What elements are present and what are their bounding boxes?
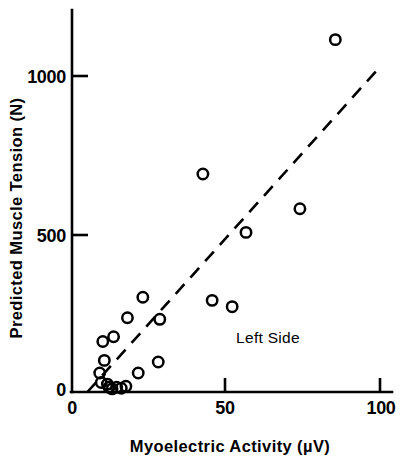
data-point bbox=[227, 301, 237, 311]
data-point bbox=[241, 227, 251, 237]
data-point bbox=[108, 332, 118, 342]
data-point bbox=[138, 292, 148, 302]
data-point bbox=[295, 204, 305, 214]
y-tick-label-1000: 1000 bbox=[27, 67, 66, 87]
chart-figure: 1000 500 0 0 50 100 Myoelectric Activity… bbox=[0, 0, 405, 465]
y-axis-title: Predicted Muscle Tension (N) bbox=[7, 97, 25, 338]
data-point bbox=[98, 336, 108, 346]
data-point bbox=[99, 355, 109, 365]
x-tick-label-0: 0 bbox=[67, 398, 77, 418]
x-tick-label-50: 50 bbox=[215, 398, 235, 418]
y-tick-label-0: 0 bbox=[56, 380, 66, 400]
x-axis-title: Myoelectric Activity (µV) bbox=[130, 437, 330, 455]
data-point bbox=[122, 313, 132, 323]
data-point bbox=[207, 295, 217, 305]
x-tick-label-100: 100 bbox=[366, 398, 395, 418]
trend-dashed-line bbox=[87, 70, 377, 392]
data-point bbox=[330, 34, 340, 44]
scatter-plot-canvas: 1000 500 0 0 50 100 Myoelectric Activity… bbox=[0, 0, 405, 465]
annotation-left-side: Left Side bbox=[236, 329, 300, 346]
data-point bbox=[133, 368, 143, 378]
data-point bbox=[155, 314, 165, 324]
y-tick-label-500: 500 bbox=[37, 226, 66, 246]
scatter-markers-group bbox=[95, 34, 341, 394]
data-point bbox=[153, 357, 163, 367]
data-point bbox=[198, 169, 208, 179]
